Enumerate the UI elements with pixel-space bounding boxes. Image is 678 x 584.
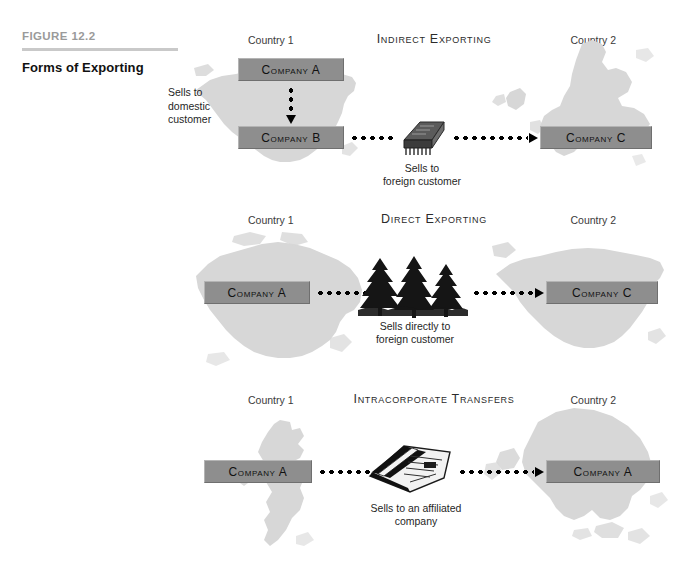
pine-trees-icon	[358, 256, 468, 318]
country-label-right: Country 2	[570, 34, 616, 46]
center-note-foreign-customer: Sells to foreign customer	[362, 162, 482, 188]
microchip-icon	[394, 114, 450, 160]
company-b-box[interactable]: Company B	[238, 126, 344, 149]
country-label-left: Country 1	[248, 34, 294, 46]
flow-company-b-to-icon	[350, 133, 396, 142]
center-note-affiliated-company: Sells to an affiliated company	[342, 502, 490, 528]
company-a-box-destination[interactable]: Company A	[546, 460, 660, 483]
canada-map	[190, 230, 368, 382]
panel-indirect-exporting: Indirect Exporting Country 1 Country 2 C…	[190, 28, 678, 210]
flow-company-a-to-company-b	[286, 86, 295, 124]
center-note-direct-sale: Sells directly to foreign customer	[350, 320, 480, 346]
company-a-box[interactable]: Company A	[204, 281, 310, 304]
flow-dots-right	[472, 291, 534, 295]
flow-icon-to-company-c	[472, 288, 544, 297]
panel-intracorporate-transfers: Intracorporate Transfers Country 1 Count…	[190, 388, 678, 580]
flow-dots-vertical	[289, 86, 293, 114]
panel-direct-exporting: Direct Exporting Country 1 Country 2 Com…	[190, 208, 678, 390]
country-label-right: Country 2	[570, 214, 616, 226]
flow-dots-left	[318, 470, 370, 474]
newspaper-icon	[364, 444, 454, 496]
flow-dots-right	[458, 470, 534, 474]
flow-dots-left	[350, 136, 396, 140]
flow-dots-right	[452, 136, 528, 140]
company-a-box-origin[interactable]: Company A	[204, 460, 312, 483]
flow-arrowhead-right	[529, 133, 538, 143]
flow-arrowhead-right	[535, 467, 544, 477]
diagram-stage: Indirect Exporting Country 1 Country 2 C…	[0, 0, 678, 584]
country-label-left: Country 1	[248, 394, 294, 406]
side-note-domestic-sale: Sells to domestic customer	[168, 86, 228, 127]
company-a-box[interactable]: Company A	[238, 58, 344, 81]
company-c-box[interactable]: Company C	[546, 281, 658, 304]
flow-arrowhead-down	[286, 115, 296, 124]
company-c-box[interactable]: Company C	[540, 126, 652, 149]
flow-company-a-to-icon	[318, 467, 370, 476]
united-kingdom-map	[234, 418, 338, 554]
europe-map	[486, 36, 676, 186]
country-label-left: Country 1	[248, 214, 294, 226]
flow-arrowhead-right	[535, 288, 544, 298]
country-label-right: Country 2	[570, 394, 616, 406]
flow-icon-to-company-a-destination	[458, 467, 544, 476]
flow-icon-to-company-c	[452, 133, 538, 142]
